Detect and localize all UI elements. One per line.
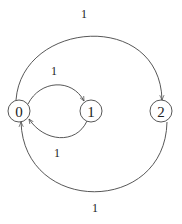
- edge-label-0-to-2: 1: [81, 7, 87, 21]
- edge-0-to-2: [16, 36, 162, 100]
- node-label: 1: [87, 104, 95, 120]
- nodes-group: 012: [8, 100, 172, 122]
- node-label: 0: [15, 104, 23, 120]
- state-node-2: 2: [150, 100, 172, 122]
- edge-1-to-0: [29, 119, 87, 138]
- node-label: 2: [157, 104, 165, 120]
- edge-0-to-1: [28, 85, 84, 104]
- state-node-1: 1: [80, 100, 102, 122]
- state-diagram: 1111 012: [0, 0, 182, 224]
- edge-label-0-to-1: 1: [51, 64, 57, 78]
- state-node-0: 0: [8, 100, 30, 122]
- edge-label-1-to-0: 1: [54, 146, 60, 160]
- edge-label-2-to-0: 1: [92, 201, 98, 215]
